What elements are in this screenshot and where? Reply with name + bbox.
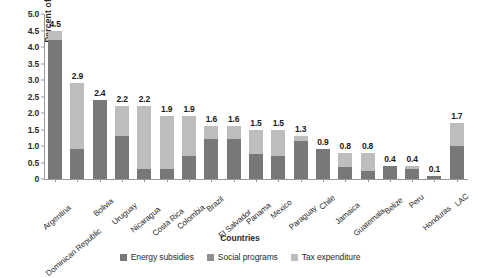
stacked-bar[interactable]: 0.4 [383, 166, 397, 179]
bar-segment-tax-expenditure[interactable] [249, 130, 263, 155]
legend-swatch-icon [291, 254, 298, 261]
bar-group[interactable]: 2.9 [66, 14, 88, 179]
bar-segment-tax-expenditure[interactable] [182, 116, 196, 156]
x-tick-label: Peru [407, 193, 425, 211]
bar-group[interactable]: 1.3 [289, 14, 311, 179]
plot-area: Percent of GDP 00.51.01.52.02.53.03.54.0… [44, 14, 468, 179]
x-tick-label: Paraguay [287, 204, 318, 232]
bar-segment-energy-subsidies[interactable] [249, 154, 263, 179]
bar-value-label: 1.7 [451, 111, 462, 121]
stacked-bar[interactable]: 0.4 [405, 166, 419, 179]
bar-segment-energy-subsidies[interactable] [227, 139, 241, 179]
legend-item[interactable]: Tax expenditure [291, 252, 361, 262]
x-tick-label: Mexico [269, 198, 294, 221]
bar-segment-energy-subsidies[interactable] [338, 167, 352, 179]
bar-group[interactable]: 1.5 [245, 14, 267, 179]
bar-segment-tax-expenditure[interactable] [227, 126, 241, 139]
bar-group[interactable]: 1.9 [178, 14, 200, 179]
bar-segment-tax-expenditure[interactable] [204, 126, 218, 139]
bar-segment-tax-expenditure[interactable] [361, 153, 375, 171]
bar-value-label: 0.9 [317, 137, 328, 147]
x-tick-label: Belize [383, 196, 405, 217]
bar-group[interactable]: 0.8 [334, 14, 356, 179]
stacked-bar[interactable]: 1.3 [294, 136, 308, 179]
bar-segment-energy-subsidies[interactable] [160, 169, 174, 179]
stacked-bar[interactable]: 1.9 [182, 116, 196, 179]
stacked-bar[interactable]: 1.9 [160, 116, 174, 179]
bar-value-label: 1.9 [161, 104, 172, 114]
bar-segment-energy-subsidies[interactable] [182, 156, 196, 179]
bar-group[interactable]: 1.9 [156, 14, 178, 179]
bar-group[interactable]: 2.2 [133, 14, 155, 179]
bar-group[interactable]: 1.5 [267, 14, 289, 179]
bar-group[interactable]: 0.1 [423, 14, 445, 179]
bar-group[interactable]: 1.6 [223, 14, 245, 179]
stacked-bar[interactable]: 1.6 [204, 126, 218, 179]
stacked-bar[interactable]: 0.8 [338, 153, 352, 179]
stacked-bar[interactable]: 1.7 [450, 123, 464, 179]
bar-segment-tax-expenditure[interactable] [70, 83, 84, 149]
bar-group[interactable]: 4.5 [44, 14, 66, 179]
bar-segment-energy-subsidies[interactable] [405, 169, 419, 179]
bar-segment-energy-subsidies[interactable] [294, 141, 308, 179]
bar-segment-energy-subsidies[interactable] [204, 139, 218, 179]
legend-item[interactable]: Social programs [207, 252, 278, 262]
x-tick-label: Argentina [41, 203, 72, 231]
bar-value-label: 4.5 [50, 19, 61, 29]
stacked-bar[interactable]: 2.9 [70, 83, 84, 179]
bar-segment-energy-subsidies[interactable] [316, 149, 330, 179]
stacked-bar[interactable]: 2.2 [137, 106, 151, 179]
bar-group[interactable]: 2.2 [111, 14, 133, 179]
x-tick-label: Honduras [420, 204, 452, 233]
x-tick-label: Chile [318, 193, 337, 211]
legend-swatch-icon [120, 254, 127, 261]
x-axis-labels: ArgentinaDominican RepublicBoliviaUrugua… [44, 182, 468, 228]
bar-group[interactable]: 0.8 [356, 14, 378, 179]
bar-value-label: 1.6 [228, 114, 239, 124]
bar-value-label: 1.3 [295, 124, 306, 134]
bar-segment-energy-subsidies[interactable] [361, 171, 375, 179]
bar-segment-energy-subsidies[interactable] [450, 146, 464, 179]
bar-segment-energy-subsidies[interactable] [70, 149, 84, 179]
bar-segment-tax-expenditure[interactable] [271, 130, 285, 156]
bar-value-label: 1.5 [273, 118, 284, 128]
bar-segment-energy-subsidies[interactable] [271, 156, 285, 179]
bar-group[interactable]: 1.7 [446, 14, 468, 179]
bar-value-label: 0.4 [384, 154, 395, 164]
bar-segment-energy-subsidies[interactable] [93, 100, 107, 179]
stacked-bar[interactable]: 0.8 [361, 153, 375, 179]
chart-legend: Energy subsidiesSocial programsTax expen… [0, 252, 480, 262]
bar-segment-energy-subsidies[interactable] [115, 136, 129, 179]
stacked-bar[interactable]: 1.5 [249, 130, 263, 180]
legend-item[interactable]: Energy subsidies [120, 252, 194, 262]
bar-segment-energy-subsidies[interactable] [137, 169, 151, 179]
stacked-bar[interactable]: 2.4 [93, 100, 107, 179]
bar-segment-energy-subsidies[interactable] [48, 40, 62, 179]
bar-group[interactable]: 2.4 [89, 14, 111, 179]
bar-value-label: 2.9 [72, 71, 83, 81]
bar-series-container: 4.52.92.42.22.21.91.91.61.61.51.51.30.90… [44, 14, 468, 179]
bar-segment-tax-expenditure[interactable] [160, 116, 174, 169]
bar-segment-tax-expenditure[interactable] [48, 31, 62, 41]
bar-group[interactable]: 0.9 [312, 14, 334, 179]
stacked-bar[interactable]: 2.2 [115, 106, 129, 179]
stacked-bar[interactable]: 0.9 [316, 149, 330, 179]
x-tick-label: Jamaica [334, 201, 362, 227]
x-axis-title: Countries [0, 233, 480, 243]
stacked-bar[interactable]: 1.5 [271, 130, 285, 179]
stacked-bar[interactable]: 1.6 [227, 126, 241, 179]
bar-segment-tax-expenditure[interactable] [115, 106, 129, 136]
bar-group[interactable]: 0.4 [379, 14, 401, 179]
legend-label: Energy subsidies [131, 252, 194, 262]
bar-group[interactable]: 1.6 [200, 14, 222, 179]
x-tick-label: Brazil [205, 194, 226, 213]
bar-segment-tax-expenditure[interactable] [137, 106, 151, 169]
bar-value-label: 0.8 [362, 141, 373, 151]
bar-segment-tax-expenditure[interactable] [450, 123, 464, 146]
bar-value-label: 2.2 [139, 94, 150, 104]
stacked-bar[interactable]: 4.5 [48, 31, 62, 179]
bar-segment-tax-expenditure[interactable] [338, 153, 352, 168]
bar-segment-energy-subsidies[interactable] [383, 166, 397, 179]
bar-value-label: 2.4 [94, 88, 105, 98]
bar-group[interactable]: 0.4 [401, 14, 423, 179]
